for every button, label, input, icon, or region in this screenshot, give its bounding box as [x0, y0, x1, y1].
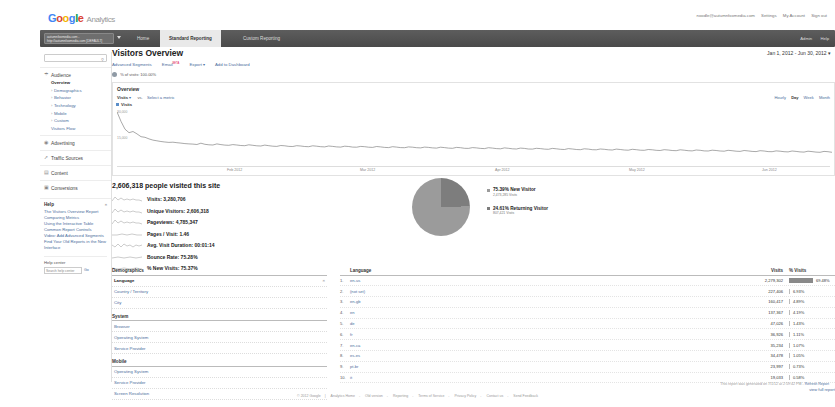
table-row[interactable]: 6.fr36,9261.11%	[340, 329, 835, 340]
row-pct-label: 1.43%	[793, 321, 804, 326]
sidebar-item-overview[interactable]: Overview	[40, 79, 111, 87]
footer-link-feedback[interactable]: Send Feedback	[513, 394, 538, 398]
sidebar-item-mobile[interactable]: ›Mobile	[40, 109, 111, 117]
table-row[interactable]: 2.(not set)227,4066.93%	[340, 286, 835, 297]
tab-home[interactable]: Home	[128, 30, 158, 47]
row-dimension-value[interactable]: es-es	[350, 353, 743, 358]
metric-selector-bar: Hourly Day Week Month Visits ▾ vs. Selec…	[113, 95, 834, 102]
settings-link[interactable]: Settings	[761, 13, 777, 18]
tab-custom-reporting[interactable]: Custom Reporting	[234, 30, 289, 47]
sidebar-item-traffic-sources[interactable]: ➚ Traffic Sources	[40, 154, 111, 162]
top-bar: GoogleAnalytics noodle@autumnfoxmedia.co…	[0, 0, 835, 30]
help-link-item[interactable]: Find Your Old Reports in the New Interfa…	[44, 239, 107, 251]
admin-link[interactable]: Admin	[800, 36, 812, 41]
dimension-item-language[interactable]: Language×	[112, 276, 327, 287]
footer-link-terms[interactable]: Terms of Service	[418, 394, 444, 398]
primary-nav-bar: autumnfoxmedia.com - http://autumnfoxmed…	[40, 30, 835, 47]
chevron-right-icon: ›	[51, 118, 52, 123]
primary-metric-selector[interactable]: Visits	[117, 95, 128, 100]
footer-link-contact[interactable]: Contact us	[486, 394, 503, 398]
sidebar-item-technology[interactable]: ›Technology	[40, 102, 111, 110]
pie-label: New Visitor	[510, 187, 535, 192]
dimension-item-operating-system[interactable]: Operating System	[112, 332, 327, 343]
add-to-dashboard-button[interactable]: Add to Dashboard	[215, 62, 250, 67]
advanced-segments-button[interactable]: Advanced Segments	[112, 62, 152, 67]
row-pct-visits: 1.11%	[783, 332, 835, 337]
close-icon[interactable]: ×	[322, 278, 325, 283]
dimension-item-browser[interactable]: Browser	[112, 321, 327, 332]
close-icon[interactable]: ×	[105, 202, 107, 207]
pie-chart[interactable]	[412, 178, 470, 236]
column-visits[interactable]: Visits	[743, 268, 783, 273]
table-row[interactable]: 4.en137,3674.19%	[340, 308, 835, 319]
column-pct-visits[interactable]: % Visits	[783, 268, 835, 273]
granularity-week[interactable]: Week	[804, 95, 814, 100]
granularity-month[interactable]: Month	[819, 95, 830, 100]
visits-line-chart[interactable]: 30,000 15,000	[117, 108, 830, 166]
pie-legend-row[interactable]: 24.61% Returning Visitor 807,421 Visits	[487, 206, 548, 216]
view-full-report-link[interactable]: view full report	[340, 387, 835, 392]
row-index: 3.	[340, 299, 350, 304]
row-visits: 23,997	[743, 364, 783, 369]
chevron-right-icon: ›	[51, 103, 52, 108]
row-dimension-value[interactable]: en	[350, 310, 743, 315]
footer-link-analytics-home[interactable]: Analytics Home	[331, 394, 355, 398]
secondary-metric-selector[interactable]: Select a metric	[147, 95, 175, 100]
traffic-icon: ➚	[44, 155, 49, 160]
granularity-day[interactable]: Day	[791, 95, 798, 100]
column-dimension[interactable]: Language	[350, 268, 743, 273]
table-row[interactable]: 3.en-gb160,4174.89%	[340, 297, 835, 308]
row-dimension-value[interactable]: it	[350, 375, 743, 380]
table-row[interactable]: 1.en-us2,279,30269.48%	[340, 276, 835, 287]
footer-link-reporting[interactable]: Reporting	[393, 394, 408, 398]
sidebar-item-conversions[interactable]: ▣ Conversions	[40, 184, 111, 192]
help-link[interactable]: Help	[820, 36, 829, 41]
email-button[interactable]: EmailBETA	[162, 62, 179, 67]
pie-legend-row[interactable]: 75.39% New Visitor 2,473,285 Visits	[487, 187, 548, 197]
sidebar-item-audience[interactable]: ☂ Audience	[40, 71, 111, 79]
my-account-link[interactable]: My Account	[783, 13, 805, 18]
table-row[interactable]: 9.pt-br23,9970.73%	[340, 362, 835, 373]
sign-out-link[interactable]: Sign out	[811, 13, 827, 18]
row-dimension-value[interactable]: en-gb	[350, 299, 743, 304]
row-dimension-value[interactable]: de	[350, 321, 743, 326]
sidebar-item-content[interactable]: ▤ Content	[40, 169, 111, 177]
chevron-down-icon[interactable]	[117, 36, 121, 39]
row-dimension-value[interactable]: en-ca	[350, 343, 743, 348]
account-selector[interactable]: autumnfoxmedia.com - http://autumnfoxmed…	[44, 33, 114, 44]
sidebar-item-visitors-flow[interactable]: Visitors Flow	[40, 125, 111, 133]
row-dimension-value[interactable]: en-us	[350, 278, 743, 283]
sidebar-item-behavior[interactable]: ›Behavior	[40, 94, 111, 102]
row-pct-visits: 0.73%	[783, 364, 835, 369]
table-row[interactable]: 8.es-es34,4781.05%	[340, 351, 835, 362]
tab-standard-reporting[interactable]: Standard Reporting	[160, 30, 221, 47]
footer-link-privacy[interactable]: Privacy Policy	[455, 394, 477, 398]
pie-sublabel: 2,473,285 Visits	[493, 193, 548, 197]
footer-link-old-version[interactable]: Old version	[365, 394, 383, 398]
row-dimension-value[interactable]: (not set)	[350, 289, 743, 294]
sidebar-item-custom[interactable]: ›Custom	[40, 117, 111, 125]
granularity-hourly[interactable]: Hourly	[774, 95, 786, 100]
dimension-item-country[interactable]: Country / Territory	[112, 287, 327, 298]
sidebar-item-advertising[interactable]: ◉ Advertising	[40, 139, 111, 147]
help-center-search-input[interactable]: Search help center	[44, 267, 82, 274]
dimension-item-city[interactable]: City	[112, 298, 327, 309]
date-range-selector[interactable]: Jan 1, 2012 - Jun 30, 2012 ▾	[767, 50, 831, 56]
row-bar	[789, 299, 790, 304]
sidebar-search-input[interactable]: ⚲	[44, 54, 107, 62]
dimension-item-mobile-service-provider[interactable]: Service Provider	[112, 378, 327, 389]
chevron-down-icon[interactable]: ▾	[129, 95, 131, 100]
help-center-go-button[interactable]: Go	[84, 268, 89, 272]
dimension-item-service-provider[interactable]: Service Provider	[112, 343, 327, 354]
table-row[interactable]: 7.en-ca35,2341.07%	[340, 340, 835, 351]
refresh-report-link[interactable]: Refresh Report	[805, 382, 829, 386]
report-toolbar: Advanced Segments EmailBETA Export ▾ Add…	[112, 62, 835, 67]
table-row[interactable]: 5.de47,0261.43%	[340, 319, 835, 330]
help-center-label: Help center	[44, 260, 107, 265]
dimension-item-mobile-os[interactable]: Operating System	[112, 367, 327, 378]
row-dimension-value[interactable]: fr	[350, 332, 743, 337]
row-dimension-value[interactable]: pt-br	[350, 364, 743, 369]
export-button[interactable]: Export ▾	[189, 62, 205, 67]
sidebar-group-traffic-sources: ➚ Traffic Sources	[40, 150, 111, 165]
sidebar-item-demographics[interactable]: ›Demographics	[40, 87, 111, 95]
